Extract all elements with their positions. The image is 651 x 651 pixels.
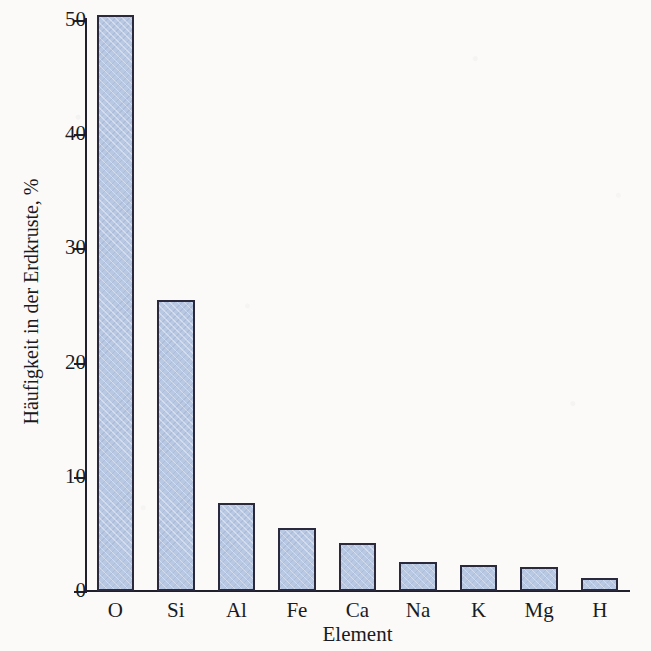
x-tick-label-k: K — [448, 600, 509, 621]
bar-al — [218, 503, 256, 591]
x-tick-label-h: H — [569, 600, 630, 621]
y-axis-title-text: Häufigkeit in der Erdkruste, % — [20, 52, 43, 552]
bar-fe — [278, 528, 316, 591]
x-tick-label-si: Si — [146, 600, 207, 621]
bar-series — [85, 20, 630, 591]
bar-ca — [339, 543, 377, 591]
bar-na — [399, 562, 437, 591]
x-tick-label-ca: Ca — [327, 600, 388, 621]
x-tick-label-mg: Mg — [509, 600, 570, 621]
x-tick-label-fe: Fe — [267, 600, 328, 621]
y-tick-label: 30 — [46, 237, 86, 258]
bar-h — [581, 578, 619, 591]
bar-o — [97, 15, 135, 591]
y-tick-label: 20 — [46, 352, 86, 373]
y-tick-label: 40 — [46, 123, 86, 144]
bar-mg — [520, 567, 558, 591]
bar-k — [460, 565, 498, 591]
y-tick-label: 0 — [46, 580, 86, 601]
x-tick-label-al: Al — [206, 600, 267, 621]
y-tick-label: 10 — [46, 466, 86, 487]
x-tick-label-o: O — [85, 600, 146, 621]
x-tick-label-na: Na — [388, 600, 449, 621]
bar-si — [157, 300, 195, 591]
x-axis-title-text: Element — [85, 622, 630, 647]
y-tick-label: 50 — [46, 9, 86, 30]
bar-chart: 01020304050 OSiAlFeCaNaKMgH Häufigkeit i… — [0, 0, 651, 651]
